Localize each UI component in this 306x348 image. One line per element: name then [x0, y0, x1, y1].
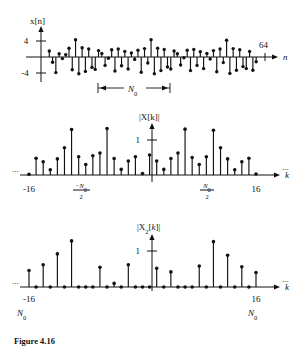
stem-marker: [169, 67, 172, 70]
stem-marker: [56, 252, 60, 256]
stem-marker: [254, 172, 258, 176]
stem-marker: [48, 168, 52, 172]
panel-xn-xlabel: n: [283, 52, 288, 62]
stem-marker: [105, 127, 109, 131]
stem-marker: [98, 265, 102, 269]
stem-marker: [54, 71, 57, 74]
stem-marker: [226, 157, 230, 161]
stem-marker: [248, 50, 251, 53]
Xk-mid-right-den: 2: [205, 193, 208, 200]
stem-marker: [228, 72, 231, 75]
xn-yaxis-arrow: [38, 26, 43, 32]
stem-marker: [166, 65, 169, 68]
xn-period-bracket: N0: [98, 82, 170, 97]
stem-marker: [74, 38, 77, 41]
stem-marker: [84, 163, 88, 167]
stem-marker: [64, 53, 67, 56]
stem-marker: [48, 49, 51, 52]
X2k-xtick-right-sub: N0: [247, 308, 257, 321]
stem-marker: [212, 240, 216, 244]
stem-marker: [71, 68, 74, 71]
stem-marker: [159, 69, 162, 72]
stem-marker: [162, 168, 166, 172]
stem-marker: [119, 285, 123, 289]
stem-marker: [155, 159, 159, 163]
panel-X2k-ylabel: |X2[k]|: [137, 222, 161, 235]
xn-end-label: 64: [259, 40, 269, 50]
stem-marker: [235, 69, 238, 72]
stem-marker: [226, 254, 230, 258]
stem-marker: [241, 65, 244, 68]
Xk-ellipsis-right: ...: [282, 162, 289, 172]
stem-marker: [90, 66, 93, 69]
stem-marker: [57, 52, 60, 55]
stem-marker: [240, 265, 244, 269]
stem-marker: [183, 285, 187, 289]
xn-xaxis-arrow: [272, 54, 278, 59]
panel-Xk-ylabel: |X[k]|: [139, 112, 160, 122]
stem-marker: [247, 156, 251, 160]
stem-marker: [163, 48, 166, 51]
stem-marker: [172, 49, 175, 52]
stem-marker: [205, 52, 208, 55]
stem-marker: [141, 172, 145, 176]
Xk-xtick-right-label: 16: [252, 184, 262, 194]
Xk-yaxis-arrow: [149, 123, 154, 129]
X2k-ytick-1-label: 1: [136, 246, 141, 256]
stem-marker: [169, 157, 173, 161]
Xk-mid-left-den: 2: [79, 193, 82, 200]
stem-marker: [70, 239, 74, 243]
Xk-xtick-left-label: -16: [23, 184, 35, 194]
stem-marker: [134, 285, 138, 289]
Xk-ytick-1-label: 1: [136, 135, 141, 145]
X2k-ellipsis-right: ...: [282, 274, 289, 284]
stem-marker: [87, 47, 90, 50]
stem-marker: [127, 263, 131, 267]
stem-marker: [110, 48, 113, 51]
X2k-xtick-left-label: -16: [23, 294, 35, 304]
stem-marker: [238, 48, 241, 51]
stem-marker: [219, 285, 223, 289]
stem-marker: [240, 160, 244, 164]
stem-marker: [176, 52, 179, 55]
stem-marker: [148, 285, 152, 289]
stem-marker: [120, 64, 123, 67]
stem-marker: [212, 128, 216, 132]
stem-marker: [80, 46, 83, 49]
stem-marker: [27, 173, 31, 177]
stem-marker: [112, 282, 116, 286]
Xk-xtick-mid-left: −N0 2: [73, 182, 90, 200]
stem-marker: [233, 168, 237, 172]
stem-marker: [155, 266, 159, 270]
stem-marker: [245, 67, 248, 70]
stem-marker: [94, 68, 97, 71]
stem-marker: [225, 39, 228, 42]
stem-marker: [41, 160, 45, 164]
stem-marker: [119, 168, 123, 172]
panel-X2k: |X2[k]| k 1 ... ... -16 N0 16 N0: [12, 222, 290, 321]
stem-marker: [247, 285, 251, 289]
X2k-xaxis-arrow: [274, 284, 280, 289]
stem-marker: [103, 64, 106, 67]
stem-marker: [77, 72, 80, 75]
Xk-xaxis-arrow: [274, 172, 280, 177]
stem-marker: [98, 151, 102, 155]
stem-marker: [251, 69, 254, 72]
stem-marker: [205, 155, 209, 159]
stem-marker: [48, 285, 52, 289]
stem-marker: [183, 127, 187, 131]
stem-marker: [169, 270, 173, 274]
xn-ytick-neg-label: -4: [21, 68, 29, 78]
stem-marker: [218, 47, 221, 50]
stem-marker: [254, 60, 257, 63]
stem-marker: [141, 285, 145, 289]
Xk-mid-left-num: −N0: [75, 182, 87, 193]
stem-marker: [219, 146, 223, 150]
xn-ytick-pos-label: 4: [24, 36, 29, 46]
stem-marker: [199, 50, 202, 53]
Xk-ellipsis-left: ...: [12, 164, 19, 174]
panel-Xk: |X[k]| k 1 ... ... -16 16 −N0 2 N0 2: [12, 112, 290, 200]
stem-marker: [254, 271, 258, 275]
stem-marker: [208, 57, 211, 60]
figure-4-16: x[n] n 4 -4 64 N0 |X[k]|: [0, 0, 306, 348]
